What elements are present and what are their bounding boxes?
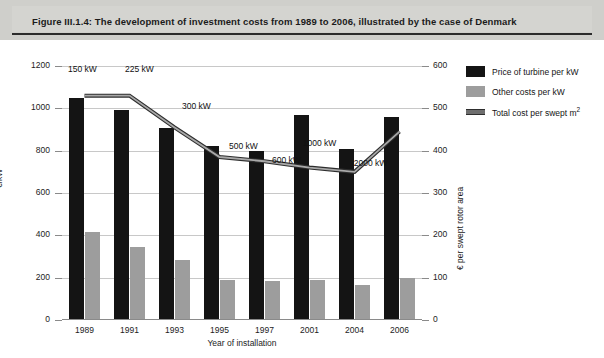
y-axis-left-tick-label: 200 (10, 272, 50, 282)
legend-item-0[interactable]: Price of turbine per kW (466, 66, 598, 77)
x-axis-label-2001: 2001 (290, 325, 330, 335)
y-axis-left-tick (55, 151, 62, 152)
y-axis-right-tick (422, 278, 429, 279)
x-axis-label-1995: 1995 (200, 325, 240, 335)
legend-item-1[interactable]: Other costs per kW (466, 86, 598, 97)
y-axis-left-tick-label: 400 (10, 229, 50, 239)
x-axis-title: Year of installation (62, 338, 422, 348)
legend-item-2[interactable]: Total cost per swept m2 (466, 106, 598, 118)
x-axis-label-2006: 2006 (380, 325, 420, 335)
y-axis-right-tick (422, 193, 429, 194)
y-axis-left-title: €/kW (0, 169, 4, 188)
y-axis-right-tick-label: 400 (433, 145, 473, 155)
y-axis-left-tick-label: 1200 (10, 60, 50, 70)
y-axis-right-tick (422, 320, 429, 321)
x-axis-label-1997: 1997 (245, 325, 285, 335)
x-axis-label-1993: 1993 (155, 325, 195, 335)
y-axis-right-tick-label: 200 (433, 229, 473, 239)
y-axis-left-tick (55, 320, 62, 321)
figure-caption-text: Figure III.1.4: The development of inves… (32, 16, 517, 27)
chart-panel: €/kW € per swept rotor area Year of inst… (0, 40, 604, 358)
legend-swatch-black-square-icon (466, 66, 485, 77)
annotation-1993: 300 kW (175, 101, 219, 111)
plot-area: 020040060080010001200 010020030040050060… (62, 66, 422, 320)
y-axis-right-tick (422, 66, 429, 67)
annotation-1995: 500 kW (222, 141, 266, 151)
y-axis-left-tick (55, 235, 62, 236)
y-axis-left-tick-label: 0 (10, 314, 50, 324)
x-axis-line (62, 319, 422, 320)
y-axis-left-tick (55, 108, 62, 109)
y-axis-right-tick (422, 151, 429, 152)
y-axis-left-tick-label: 1000 (10, 102, 50, 112)
y-axis-left-tick (55, 193, 62, 194)
x-axis-label-2004: 2004 (335, 325, 375, 335)
y-axis-right-tick (422, 235, 429, 236)
legend-swatch-grey-line-icon (466, 109, 485, 115)
x-axis-label-1991: 1991 (110, 325, 150, 335)
y-axis-right-tick (422, 108, 429, 109)
annotation-1997: 600 kW (265, 155, 309, 165)
x-axis-label-1989: 1989 (65, 325, 105, 335)
y-axis-right-tick-label: 100 (433, 272, 473, 282)
caption-divider (12, 33, 592, 35)
legend-label-superscript: 2 (577, 106, 581, 113)
y-axis-left-tick-label: 800 (10, 145, 50, 155)
chart-legend: Price of turbine per kWOther costs per k… (466, 66, 598, 127)
legend-label: Price of turbine per kW (492, 67, 578, 77)
y-axis-left-tick-label: 600 (10, 187, 50, 197)
total-cost-line (62, 66, 422, 320)
annotation-2001: 1000 kW (298, 138, 342, 148)
legend-label: Other costs per kW (492, 87, 565, 97)
legend-label: Total cost per swept m2 (492, 106, 580, 118)
annotation-1991: 225 kW (118, 64, 162, 74)
y-axis-right-tick-label: 300 (433, 187, 473, 197)
y-axis-left-tick (55, 278, 62, 279)
annotation-1989: 150 kW (61, 64, 105, 74)
annotation-2004: 2000 kW (349, 158, 393, 168)
y-axis-right-tick-label: 0 (433, 314, 473, 324)
legend-swatch-grey-square-icon (466, 86, 485, 97)
figure-caption-bar: Figure III.1.4: The development of inves… (12, 6, 592, 32)
